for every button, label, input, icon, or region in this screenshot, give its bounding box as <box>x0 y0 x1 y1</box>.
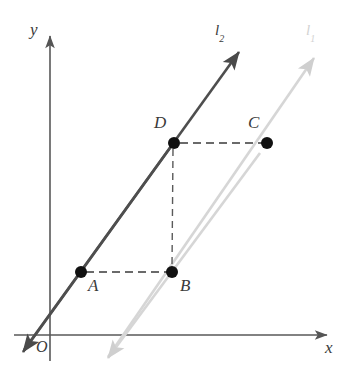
dashed-segment-d-b <box>172 149 173 267</box>
line-l1-label-subscript: 1 <box>310 33 315 44</box>
line-l1 <box>108 58 314 358</box>
point-a-dot <box>75 266 87 278</box>
marked-points <box>75 137 273 278</box>
figure-canvas <box>0 0 350 381</box>
line-l1-label: l1 <box>306 22 315 41</box>
line-l2 <box>23 52 239 352</box>
point-b-label: B <box>180 276 190 296</box>
origin-label: O <box>36 338 48 356</box>
line-l2-lower-ray <box>23 148 170 352</box>
y-axis-label: y <box>30 20 38 40</box>
line-l1-lower-ray <box>108 153 260 358</box>
x-axis-label: x <box>325 338 333 358</box>
point-a-label: A <box>88 276 98 296</box>
line-l2-label: l2 <box>215 22 224 41</box>
line-l1-upper-ray <box>108 58 314 357</box>
dashed-connectors <box>86 143 262 272</box>
point-c-label: C <box>248 113 259 133</box>
geometry-figure: y x O l2 l1 A B C D <box>0 0 350 381</box>
point-d-label: D <box>154 113 166 133</box>
line-l2-label-subscript: 2 <box>219 33 224 44</box>
point-b-dot <box>166 266 178 278</box>
point-d-dot <box>168 137 180 149</box>
point-c-dot <box>261 137 273 149</box>
